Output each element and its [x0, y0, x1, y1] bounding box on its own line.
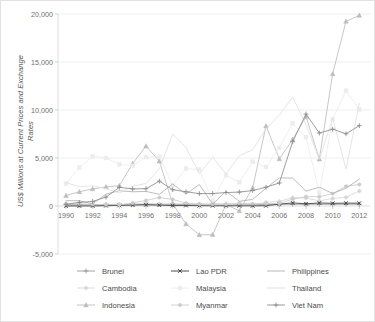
- data-point-marker: [344, 131, 349, 136]
- legend-label: Viet Nam: [292, 301, 323, 310]
- data-point-marker: [238, 202, 241, 205]
- data-point-marker: [274, 303, 279, 308]
- data-point-marker: [170, 187, 175, 192]
- data-point-marker: [157, 179, 162, 184]
- series-line: [66, 114, 359, 204]
- data-point-marker: [131, 201, 134, 204]
- data-point-marker: [317, 191, 321, 195]
- data-point-marker: [184, 189, 189, 194]
- data-point-marker: [178, 286, 182, 290]
- y-tick-label: 15,000: [31, 58, 53, 67]
- data-point-marker: [171, 198, 174, 201]
- x-tick-label: 1996: [138, 211, 154, 220]
- data-point-marker: [277, 181, 282, 186]
- data-point-marker: [358, 183, 361, 186]
- data-point-marker: [224, 202, 227, 205]
- legend-label: Myanmar: [196, 301, 228, 310]
- x-tick-label: 1990: [58, 211, 74, 220]
- legend-item-viet-nam[interactable]: Viet Nam: [267, 301, 323, 310]
- x-tick-label: 2010: [325, 211, 341, 220]
- x-tick-label: 1992: [85, 211, 101, 220]
- data-point-marker: [264, 165, 268, 169]
- y-axis-title: US$ Millions at Current Prices and Excha…: [16, 55, 35, 207]
- data-point-marker: [144, 186, 149, 191]
- data-point-marker: [278, 202, 281, 205]
- data-point-marker: [357, 123, 362, 128]
- data-point-marker: [91, 154, 95, 158]
- data-point-marker: [84, 286, 88, 290]
- data-point-marker: [77, 166, 81, 170]
- legend-item-indonesia[interactable]: Indonesia: [77, 301, 136, 310]
- x-tick-label: 1994: [111, 211, 127, 220]
- data-point-marker: [237, 190, 242, 195]
- data-point-marker: [344, 89, 348, 93]
- legend-label: Lao PDR: [196, 267, 227, 276]
- y-tick-label: 10,000: [31, 106, 53, 115]
- data-point-marker: [330, 71, 335, 75]
- data-point-marker: [104, 156, 108, 160]
- data-point-marker: [330, 196, 334, 200]
- legend-label: Malaysia: [196, 284, 227, 293]
- data-point-marker: [304, 195, 307, 198]
- data-point-marker: [357, 189, 361, 193]
- series-line: [66, 97, 359, 193]
- data-point-marker: [131, 164, 135, 168]
- line-chart-figure: -5,00005,00010,00015,00020,000 199019921…: [0, 0, 375, 322]
- data-point-marker: [291, 197, 294, 200]
- legend-item-lao-pdr[interactable]: Lao PDR: [171, 267, 227, 276]
- data-point-marker: [84, 269, 89, 274]
- legend-item-cambodia[interactable]: Cambodia: [77, 284, 137, 293]
- y-tick-label: 5,000: [35, 154, 53, 163]
- data-point-marker: [291, 122, 295, 126]
- data-point-marker: [104, 203, 107, 206]
- legend-item-brunei[interactable]: Brunei: [77, 267, 124, 276]
- data-point-marker: [197, 191, 202, 196]
- legend-label: Cambodia: [102, 284, 137, 293]
- data-point-marker: [158, 196, 161, 199]
- legend-label: Philippines: [292, 267, 329, 276]
- y-tick-label: -5,000: [33, 250, 53, 259]
- y-axis-tick-labels: -5,00005,00010,00015,00020,000: [31, 10, 58, 259]
- data-point-marker: [118, 203, 121, 206]
- data-point-marker: [178, 303, 181, 306]
- x-tick-label: 2006: [271, 211, 287, 220]
- x-tick-label: 2000: [191, 211, 207, 220]
- legend-label: Indonesia: [102, 301, 136, 310]
- data-point-marker: [264, 185, 269, 190]
- legend-item-malaysia[interactable]: Malaysia: [171, 284, 227, 293]
- legend-label: Thailand: [292, 284, 321, 293]
- data-point-marker: [237, 180, 241, 184]
- data-point-marker: [251, 160, 255, 164]
- data-point-marker: [198, 202, 201, 205]
- series-thailand: [66, 97, 359, 193]
- x-tick-label: 2008: [298, 211, 314, 220]
- data-point-marker: [277, 146, 281, 150]
- x-tick-label: 2004: [245, 211, 261, 220]
- y-tick-label: 20,000: [31, 10, 53, 19]
- data-point-marker: [264, 202, 267, 205]
- x-tick-label: 2012: [351, 211, 367, 220]
- chart-legend: BruneiLao PDRPhilippinesCambodiaMalaysia…: [77, 267, 329, 310]
- data-point-marker: [157, 155, 161, 159]
- data-point-marker: [224, 190, 229, 195]
- data-point-marker: [184, 167, 188, 171]
- data-point-marker: [144, 144, 149, 148]
- data-series-group: [64, 13, 362, 237]
- data-point-marker: [144, 199, 147, 202]
- legend-item-myanmar[interactable]: Myanmar: [171, 301, 228, 310]
- data-point-marker: [117, 162, 121, 166]
- series-malaysia: [64, 89, 361, 203]
- data-point-marker: [237, 208, 242, 212]
- data-point-marker: [144, 155, 148, 159]
- data-point-marker: [184, 201, 187, 204]
- data-point-marker: [251, 202, 254, 205]
- legend-label: Brunei: [102, 267, 124, 276]
- legend-item-thailand[interactable]: Thailand: [267, 284, 321, 293]
- y-tick-label: 0: [49, 202, 53, 211]
- data-point-marker: [344, 195, 348, 199]
- chart-canvas: -5,00005,00010,00015,00020,000 199019921…: [1, 1, 375, 322]
- data-point-marker: [304, 135, 308, 139]
- data-point-marker: [318, 195, 321, 198]
- x-axis-tick-labels: 1990199219941996199820002002200420062008…: [58, 206, 367, 220]
- legend-item-philippines[interactable]: Philippines: [267, 267, 329, 276]
